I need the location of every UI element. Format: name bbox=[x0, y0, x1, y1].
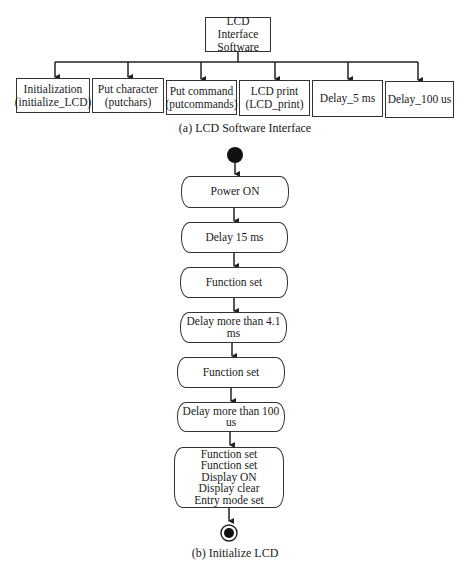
initial-state-node bbox=[227, 147, 243, 163]
step-delay-4-1ms: Delay more than 4.1 ms bbox=[180, 312, 287, 343]
step-init-sequence: Function set Function set Display ON Dis… bbox=[174, 447, 284, 508]
root-box-lcd-interface-software: LCD Interface Software bbox=[205, 17, 271, 52]
child-box-delay-100us: Delay_100 us bbox=[385, 81, 454, 118]
step-delay-100us: Delay more than 100 us bbox=[177, 402, 285, 432]
caption-part-a: (a) LCD Software Interface bbox=[160, 121, 330, 136]
child-box-initialization: Initialization (initialize_LCD) bbox=[16, 78, 90, 113]
child-box-put-command: Put command (putcommands) bbox=[166, 80, 237, 115]
step-function-set-1: Function set bbox=[180, 267, 288, 298]
step-delay-15ms: Delay 15 ms bbox=[181, 222, 288, 253]
step-function-set-2: Function set bbox=[177, 357, 285, 388]
step-power-on: Power ON bbox=[181, 176, 289, 208]
child-box-lcd-print: LCD print (LCD_print) bbox=[239, 80, 310, 116]
child-box-put-character: Put character (putchars) bbox=[92, 78, 164, 113]
caption-part-b: (b) Initialize LCD bbox=[170, 546, 300, 561]
child-box-delay-5ms: Delay_5 ms bbox=[312, 80, 383, 117]
